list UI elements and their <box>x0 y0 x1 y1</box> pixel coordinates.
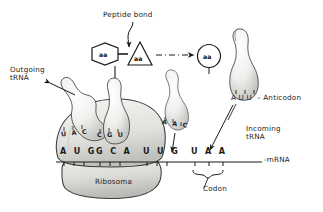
anticodon-label: A U U – Anticodon <box>231 94 301 102</box>
diagram-canvas: Peptide bond Outgoing tRNA Incoming tRNA… <box>0 0 323 212</box>
trna-incoming <box>230 29 259 100</box>
peptide-bond-leader <box>128 22 133 47</box>
mrna-codon-3: U U G <box>143 147 180 156</box>
ribosome-label: Ribosoma <box>95 178 132 186</box>
codon-label: Codon <box>203 185 227 193</box>
amino-acid-hexagon-label: aa <box>99 51 107 58</box>
diagram-artwork <box>0 0 323 212</box>
peptide-bond-label: Peptide bond <box>103 11 153 19</box>
amino-acid-triangle-label: aa <box>134 55 142 62</box>
trna-bound-anticodon: C G U <box>97 131 125 139</box>
incoming-trna-label: Incoming tRNA <box>246 125 281 142</box>
mrna-codon-4: U A A <box>191 147 227 156</box>
mrna-label: -mRNA <box>264 156 290 164</box>
incoming-trna-leader <box>210 105 233 150</box>
amino-acid-circle-label: aa <box>203 53 211 60</box>
outgoing-trna-label: Outgoing tRNA <box>10 66 45 83</box>
mrna-codon-2: G C A <box>96 147 132 156</box>
mrna-codon-1: A U G <box>60 147 97 156</box>
codon-brace <box>193 170 223 178</box>
